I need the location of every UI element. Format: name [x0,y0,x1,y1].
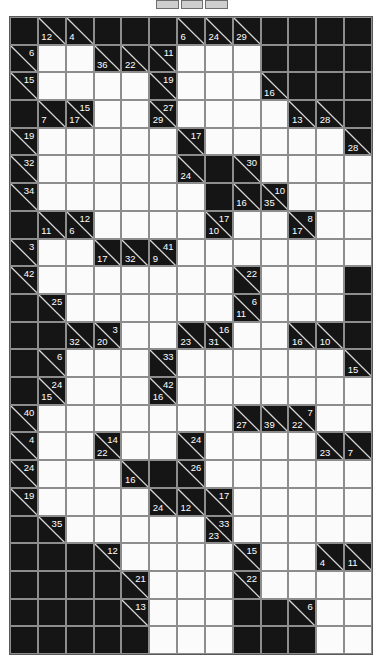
entry-cell[interactable] [316,405,344,433]
entry-cell[interactable] [121,128,149,156]
entry-cell[interactable] [177,45,205,73]
entry-cell[interactable] [66,460,94,488]
entry-cell[interactable] [205,266,233,294]
entry-cell[interactable] [121,377,149,405]
entry-cell[interactable] [177,266,205,294]
entry-cell[interactable] [233,72,261,100]
entry-cell[interactable] [121,183,149,211]
entry-cell[interactable] [316,599,344,627]
entry-cell[interactable] [94,72,122,100]
entry-cell[interactable] [177,100,205,128]
entry-cell[interactable] [94,155,122,183]
entry-cell[interactable] [344,155,372,183]
entry-cell[interactable] [94,405,122,433]
entry-cell[interactable] [233,460,261,488]
entry-cell[interactable] [288,239,316,267]
entry-cell[interactable] [233,211,261,239]
entry-cell[interactable] [205,571,233,599]
entry-cell[interactable] [233,128,261,156]
entry-cell[interactable] [261,571,289,599]
entry-cell[interactable] [205,239,233,267]
entry-cell[interactable] [94,516,122,544]
entry-cell[interactable] [177,516,205,544]
entry-cell[interactable] [149,266,177,294]
entry-cell[interactable] [205,45,233,73]
entry-cell[interactable] [177,599,205,627]
entry-cell[interactable] [38,488,66,516]
entry-cell[interactable] [38,460,66,488]
entry-cell[interactable] [316,294,344,322]
entry-cell[interactable] [121,266,149,294]
entry-cell[interactable] [177,377,205,405]
entry-cell[interactable] [205,349,233,377]
entry-cell[interactable] [261,266,289,294]
entry-cell[interactable] [66,405,94,433]
entry-cell[interactable] [344,377,372,405]
entry-cell[interactable] [121,322,149,350]
entry-cell[interactable] [38,72,66,100]
entry-cell[interactable] [261,349,289,377]
entry-cell[interactable] [38,239,66,267]
entry-cell[interactable] [233,239,261,267]
entry-cell[interactable] [94,183,122,211]
entry-cell[interactable] [205,460,233,488]
entry-cell[interactable] [205,377,233,405]
entry-cell[interactable] [94,100,122,128]
entry-cell[interactable] [66,294,94,322]
entry-cell[interactable] [149,183,177,211]
entry-cell[interactable] [66,266,94,294]
entry-cell[interactable] [316,571,344,599]
entry-cell[interactable] [316,488,344,516]
entry-cell[interactable] [344,599,372,627]
entry-cell[interactable] [94,128,122,156]
entry-cell[interactable] [66,516,94,544]
entry-cell[interactable] [177,349,205,377]
entry-cell[interactable] [316,183,344,211]
entry-cell[interactable] [121,516,149,544]
entry-cell[interactable] [66,349,94,377]
entry-cell[interactable] [233,377,261,405]
entry-cell[interactable] [94,349,122,377]
entry-cell[interactable] [261,100,289,128]
entry-cell[interactable] [149,432,177,460]
entry-cell[interactable] [66,128,94,156]
entry-cell[interactable] [94,460,122,488]
entry-cell[interactable] [66,45,94,73]
entry-cell[interactable] [149,294,177,322]
entry-cell[interactable] [344,183,372,211]
entry-cell[interactable] [66,377,94,405]
entry-cell[interactable] [261,460,289,488]
entry-cell[interactable] [316,516,344,544]
entry-cell[interactable] [344,571,372,599]
entry-cell[interactable] [344,405,372,433]
entry-cell[interactable] [288,155,316,183]
entry-cell[interactable] [38,183,66,211]
entry-cell[interactable] [316,377,344,405]
entry-cell[interactable] [94,377,122,405]
entry-cell[interactable] [121,405,149,433]
entry-cell[interactable] [261,294,289,322]
entry-cell[interactable] [205,599,233,627]
entry-cell[interactable] [94,266,122,294]
entry-cell[interactable] [121,349,149,377]
entry-cell[interactable] [288,183,316,211]
entry-cell[interactable] [205,72,233,100]
entry-cell[interactable] [316,128,344,156]
entry-cell[interactable] [149,571,177,599]
entry-cell[interactable] [233,100,261,128]
entry-cell[interactable] [233,45,261,73]
entry-cell[interactable] [205,405,233,433]
entry-cell[interactable] [66,239,94,267]
entry-cell[interactable] [177,405,205,433]
entry-cell[interactable] [288,432,316,460]
entry-cell[interactable] [121,432,149,460]
entry-cell[interactable] [149,516,177,544]
entry-cell[interactable] [149,211,177,239]
entry-cell[interactable] [344,211,372,239]
entry-cell[interactable] [38,432,66,460]
entry-cell[interactable] [149,128,177,156]
entry-cell[interactable] [316,266,344,294]
entry-cell[interactable] [177,543,205,571]
entry-cell[interactable] [205,543,233,571]
entry-cell[interactable] [261,432,289,460]
